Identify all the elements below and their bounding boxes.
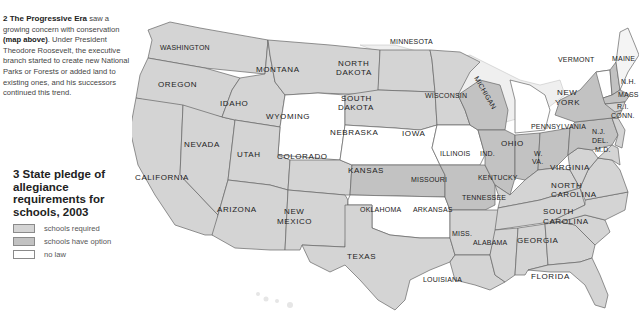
label-arkansas: ARKANSAS — [413, 206, 453, 213]
caption-title: The Progressive Era — [10, 14, 87, 23]
label-south-dakota-2: DAKOTA — [338, 103, 374, 112]
legend-swatch-none — [13, 250, 35, 259]
us-map: WASHINGTON OREGON CALIFORNIA NEVADA IDAH… — [132, 0, 639, 316]
label-ohio: OHIO — [501, 139, 524, 148]
legend-item-required: schools required — [13, 222, 111, 235]
label-maine: MAINE — [612, 55, 635, 62]
legend-label: schools required — [44, 224, 100, 233]
label-west-virginia-2: VA. — [532, 158, 543, 165]
label-new-mexico-2: MEXICO — [277, 217, 312, 226]
label-virginia: VIRGINIA — [550, 163, 590, 172]
caption-map-ref: (map above) — [3, 35, 48, 44]
state-missouri — [440, 165, 495, 210]
label-oklahoma: OKLAHOMA — [360, 206, 401, 213]
state-iowa — [432, 125, 485, 165]
label-colorado: COLORADO — [277, 152, 328, 161]
sidebar: 2 The Progressive Era saw a growing conc… — [0, 0, 132, 316]
label-mississippi: MISS. — [452, 230, 472, 237]
label-south-carolina-1: SOUTH — [543, 207, 574, 216]
state-north-dakota — [378, 50, 435, 92]
label-wisconsin: WISCONSIN — [425, 92, 467, 99]
label-new-mexico-1: NEW — [284, 207, 304, 216]
label-arizona: ARIZONA — [217, 205, 257, 214]
label-pennsylvania: PENNSYLVANIA — [531, 123, 586, 130]
label-utah: UTAH — [237, 150, 261, 159]
label-missouri: MISSOURI — [411, 176, 447, 183]
label-kansas: KANSAS — [348, 166, 384, 175]
label-new-york-2: YORK — [555, 98, 580, 107]
label-idaho: IDAHO — [220, 99, 248, 108]
label-west-virginia-1: W. — [534, 150, 543, 157]
label-georgia: GEORGIA — [517, 236, 559, 245]
caption-number: 2 — [3, 14, 7, 23]
legend-item-none: no law — [13, 248, 111, 261]
label-maryland: M.D. — [595, 146, 611, 153]
label-rhode-island: R.I. — [617, 103, 629, 110]
label-wyoming: WYOMING — [266, 112, 310, 121]
label-nevada: NEVADA — [184, 140, 220, 149]
label-kentucky: KENTUCKY — [478, 174, 518, 181]
label-montana: MONTANA — [256, 65, 300, 74]
legend-swatch-option — [13, 237, 35, 246]
label-iowa: IOWA — [402, 129, 425, 138]
caption-text-2: . Under President Theodore Roosevelt, th… — [3, 35, 129, 97]
label-california: CALIFORNIA — [135, 173, 189, 182]
state-colorado — [288, 160, 352, 195]
label-north-carolina-2: CAROLINA — [551, 190, 597, 199]
state-wyoming — [278, 93, 345, 160]
label-oregon: OREGON — [158, 80, 197, 89]
label-vermont: VERMONT — [558, 56, 595, 63]
label-florida: FLORIDA — [531, 272, 570, 281]
label-north-dakota-2: DAKOTA — [336, 68, 372, 77]
legend-label: schools have option — [44, 237, 111, 246]
legend: schools required schools have option no … — [13, 222, 111, 261]
label-new-hampshire: N.H. — [621, 78, 636, 85]
label-massachusetts: MASS — [618, 91, 639, 98]
legend-swatch-required — [13, 224, 35, 233]
islands — [256, 292, 293, 308]
label-minnesota: MINNESOTA — [390, 38, 433, 45]
label-north-carolina-1: NORTH — [551, 181, 582, 190]
label-new-jersey: N.J. — [592, 128, 605, 135]
legend-label: no law — [44, 250, 66, 259]
label-south-carolina-2: CAROLINA — [543, 217, 589, 226]
label-louisiana: LOUISIANA — [423, 276, 462, 283]
label-indiana: IND. — [480, 150, 495, 157]
label-tennessee: TENNESSEE — [462, 194, 506, 201]
legend-item-option: schools have option — [13, 235, 111, 248]
legend-title: 3 State pledge of allegiance requirement… — [13, 168, 133, 218]
label-north-dakota-1: NORTH — [338, 59, 369, 68]
label-alabama: ALABAMA — [473, 239, 508, 246]
label-illinois: ILLINOIS — [440, 150, 471, 157]
label-delaware: DEL. — [592, 137, 608, 144]
label-washington: WASHINGTON — [160, 44, 210, 51]
label-new-york-1: NEW — [557, 88, 577, 97]
label-south-dakota-1: SOUTH — [341, 94, 372, 103]
label-connecticut: CONN. — [611, 112, 635, 119]
caption: 2 The Progressive Era saw a growing conc… — [3, 14, 131, 99]
label-nebraska: NEBRASKA — [330, 128, 378, 137]
label-texas: TEXAS — [347, 252, 376, 261]
